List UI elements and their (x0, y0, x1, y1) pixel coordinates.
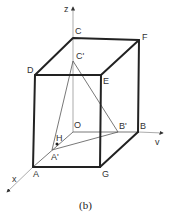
y-axis-label: v (155, 137, 160, 147)
label-F: F (142, 32, 148, 42)
label-H: H (56, 133, 63, 143)
box-top-face (35, 38, 139, 75)
y-axis (138, 132, 163, 133)
edge-G-B (100, 132, 138, 167)
label-E: E (103, 76, 109, 86)
box-pyramid-diagram: z v x C F D E C' O B' B H A' A G (b) (0, 0, 175, 218)
label-B: B (140, 121, 146, 131)
edge-F-B (138, 40, 139, 132)
figure-caption: (b) (79, 199, 92, 212)
label-B-prime: B' (119, 121, 127, 131)
x-axis-label: x (12, 174, 17, 184)
label-O: O (74, 120, 81, 130)
edge-E-G (100, 75, 101, 167)
edge-D-A (33, 75, 35, 167)
x-axis (7, 167, 33, 192)
label-C: C (75, 26, 82, 36)
label-G: G (102, 169, 109, 179)
label-C-prime: C' (76, 51, 84, 61)
label-A-prime: A' (51, 152, 59, 162)
label-A: A (33, 169, 39, 179)
z-axis-label: z (64, 4, 69, 14)
label-D: D (27, 65, 34, 75)
